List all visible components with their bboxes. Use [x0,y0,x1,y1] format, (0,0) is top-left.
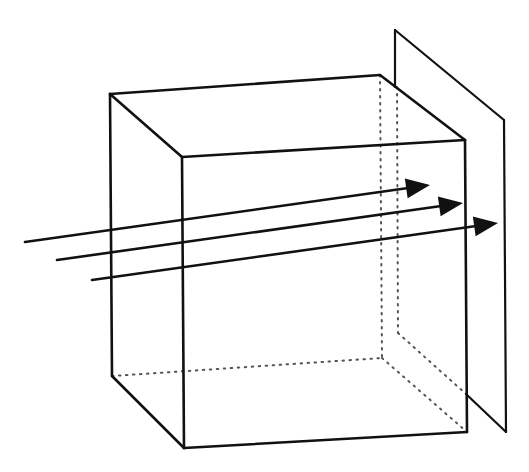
cube-hidden-edge [380,75,382,358]
arrow-shaft [57,206,441,260]
arrow-shaft [25,188,408,242]
cube-edge [110,75,380,94]
ray-1-arrow [25,178,430,242]
cube-edge [380,75,465,140]
cube-hidden-edge [112,358,382,376]
arrowhead-icon [405,178,430,198]
cube-edge [184,432,467,448]
arrowhead-icon [438,196,463,216]
cube-edge [465,140,467,432]
cube-edge [182,157,184,448]
plane-edge [466,394,506,432]
plane-hidden-edge [397,87,398,333]
cube-edge [182,140,465,157]
plane-edge [504,120,506,432]
cube-visible-edges [110,75,467,448]
plane-hidden-edge [398,333,466,394]
arrowhead-icon [473,216,498,236]
cube-edge [112,376,184,448]
cube-edge [110,94,112,376]
plane-visible-edges [395,30,506,432]
ray-arrows [25,178,498,280]
plane-edge [395,30,504,120]
cube-hidden-edge [382,358,467,432]
cube-plane-rays-diagram [0,0,529,472]
cube-edge [110,94,182,157]
arrow-shaft [92,226,476,280]
